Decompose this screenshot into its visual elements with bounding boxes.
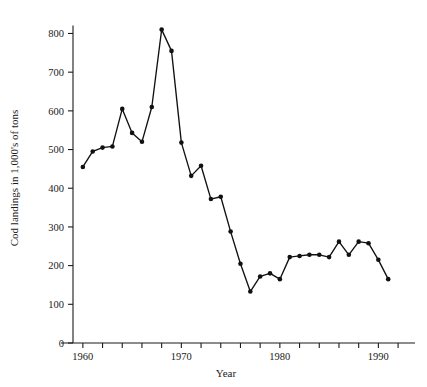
data-point-marker (81, 165, 86, 170)
data-point-marker (209, 197, 214, 202)
data-point-marker (120, 107, 125, 112)
x-axis: 1960197019801990 (61, 343, 415, 362)
data-point-marker (386, 277, 391, 282)
data-point-marker (376, 258, 381, 263)
y-axis-tick-label: 400 (48, 183, 64, 194)
chart-page: 0100200300400500600700800 19601970198019… (0, 0, 427, 387)
y-axis-tick-label: 600 (48, 106, 64, 117)
data-point-marker (169, 49, 174, 54)
data-point-marker (179, 140, 184, 145)
data-point-marker (278, 277, 283, 282)
data-point-marker (307, 252, 312, 257)
data-point-marker (258, 274, 263, 279)
y-axis-tick-label: 500 (48, 144, 64, 155)
y-axis-tick-label: 200 (48, 260, 64, 271)
data-point-marker (159, 27, 164, 32)
data-point-marker (199, 164, 204, 169)
data-point-marker (150, 105, 155, 110)
data-point-marker (287, 255, 292, 260)
cod-landings-line-chart: 0100200300400500600700800 19601970198019… (0, 0, 427, 387)
series-line-path (83, 30, 388, 292)
data-point-marker (218, 194, 223, 199)
data-point-marker (100, 145, 105, 150)
data-point-marker (228, 229, 233, 234)
y-axis-title: Cod landings in 1,000's of tons (8, 110, 20, 246)
data-series-cod-landings (81, 27, 391, 294)
data-point-marker (317, 252, 322, 257)
x-axis-tick-label: 1960 (72, 351, 93, 362)
y-axis-tick-label: 700 (48, 67, 64, 78)
x-axis-tick-label: 1980 (269, 351, 290, 362)
data-point-marker (248, 289, 253, 294)
y-axis: 0100200300400500600700800 (48, 25, 73, 348)
x-axis-tick-label: 1990 (368, 351, 389, 362)
x-axis-tick-label: 1970 (171, 351, 192, 362)
data-point-marker (356, 239, 361, 244)
x-axis-title: Year (216, 367, 237, 379)
data-point-marker (327, 255, 332, 260)
data-point-marker (297, 254, 302, 259)
data-point-marker (189, 174, 194, 179)
data-point-marker (140, 140, 145, 145)
y-axis-tick-label: 300 (48, 222, 64, 233)
data-point-marker (347, 252, 352, 257)
data-point-marker (268, 271, 273, 276)
data-point-marker (130, 131, 135, 136)
data-point-marker (90, 149, 95, 154)
data-point-marker (238, 261, 243, 266)
data-point-marker (366, 241, 371, 246)
y-axis-tick-label: 800 (48, 28, 64, 39)
data-point-marker (337, 239, 342, 244)
data-point-marker (110, 144, 115, 149)
y-axis-tick-label: 100 (48, 299, 64, 310)
